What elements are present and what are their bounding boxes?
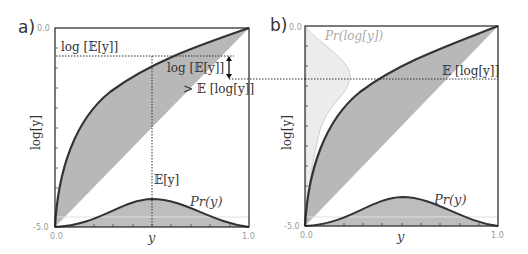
x-tick-left: 0.0: [300, 231, 313, 240]
pr-y-label: Pr(y): [433, 192, 466, 207]
E-log-y-label: 𝔼 [log[y]]: [442, 64, 499, 78]
gt-E-log-y-label: > 𝔼 [log[y]]: [183, 82, 254, 96]
x-tick-right: 1.0: [491, 231, 504, 240]
x-tick-right: 1.0: [242, 232, 255, 241]
log-E-y-label-2: log [𝔼[y]]: [167, 61, 224, 75]
figure: a) 0.0 -5.0 0.0 1.0 y log[y] log [𝔼[y]] …: [0, 0, 528, 254]
panel-a: a) 0.0 -5.0 0.0 1.0 y log[y] log [𝔼[y]] …: [18, 17, 305, 245]
pr-log-y-label: Pr(log[y]): [324, 29, 383, 43]
panel-label: a): [18, 17, 35, 37]
panel-label: b): [270, 15, 287, 35]
pr-y-label: Pr(y): [189, 194, 222, 209]
E-y-label: 𝔼[y]: [154, 173, 179, 187]
y-axis-label: log[y]: [29, 115, 43, 150]
x-axis-label: y: [147, 230, 156, 245]
arrow-down-icon: [226, 74, 232, 79]
panel-b: b) 0.0 -5.0 0.0 1.0 y log[y] Pr(log[y]) …: [270, 15, 504, 244]
x-tick-left: 0.0: [50, 232, 63, 241]
y-tick-top: 0.0: [37, 24, 50, 33]
y-axis-label: log[y]: [280, 115, 294, 150]
y-tick-bottom: -5.0: [284, 222, 300, 231]
arrow-up-icon: [226, 56, 232, 61]
log-E-y-label: log [𝔼[y]]: [61, 40, 118, 54]
y-tick-bottom: -5.0: [33, 223, 49, 232]
x-axis-label: y: [396, 229, 405, 244]
y-tick-top: 0.0: [289, 23, 302, 32]
